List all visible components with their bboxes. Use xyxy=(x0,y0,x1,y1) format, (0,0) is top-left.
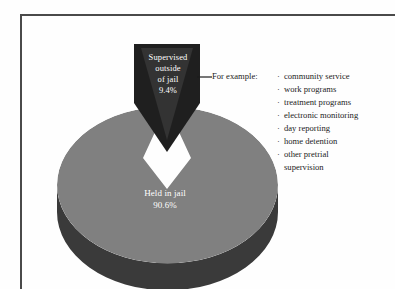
figure-page: Supervised outside of jail 9.4% Held in … xyxy=(0,0,395,289)
list-item: · home detention xyxy=(277,135,358,148)
bullet-icon: · xyxy=(277,96,280,109)
list-item: · day reporting xyxy=(277,122,358,135)
slice-label-held-in-jail-value: 90.6% xyxy=(110,199,220,211)
slice-label-held-in-jail-name: Held in jail xyxy=(110,187,220,199)
list-item-label: community service xyxy=(284,71,350,81)
bullet-icon: · xyxy=(277,122,280,135)
list-item-label: home detention xyxy=(284,136,337,146)
list-item: · electronic monitoring xyxy=(277,109,358,122)
slice-label-supervised-line1: Supervised xyxy=(133,52,203,63)
list-item: · community service xyxy=(277,70,358,83)
list-item-label-continuation: supervision xyxy=(284,161,358,174)
slice-label-supervised-line2: outside xyxy=(133,63,203,74)
annotation-lead-in: For example: xyxy=(212,70,258,83)
list-item: · other pretrial supervision xyxy=(277,148,358,174)
list-item-label: work programs xyxy=(284,84,336,94)
list-item-label: other pretrial xyxy=(284,149,329,159)
list-item-label: electronic monitoring xyxy=(284,110,358,120)
list-item-label: treatment programs xyxy=(284,97,351,107)
list-item-label: day reporting xyxy=(284,123,330,133)
bullet-icon: · xyxy=(277,109,280,122)
annotation-bullet-list: · community service · work programs · tr… xyxy=(277,70,358,174)
list-item: · work programs xyxy=(277,83,358,96)
bullet-icon: · xyxy=(277,70,280,83)
slice-label-held-in-jail: Held in jail 90.6% xyxy=(110,187,220,211)
slice-label-supervised: Supervised outside of jail 9.4% xyxy=(133,52,203,96)
bullet-icon: · xyxy=(277,83,280,96)
slice-label-supervised-value: 9.4% xyxy=(133,85,203,96)
list-item: · treatment programs xyxy=(277,96,358,109)
slice-label-supervised-line3: of jail xyxy=(133,74,203,85)
bullet-icon: · xyxy=(277,148,280,161)
bullet-icon: · xyxy=(277,135,280,148)
